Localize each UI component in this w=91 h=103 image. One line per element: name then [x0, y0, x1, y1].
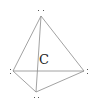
vertex-marker-bottom	[34, 97, 39, 98]
vertex-marker-right	[87, 69, 88, 74]
center-label: C	[39, 53, 49, 66]
vertex-marker-left	[10, 69, 11, 74]
tetrahedron-diagram: C	[0, 0, 91, 103]
edge-top-left	[13, 16, 41, 71]
vertex-marker-top	[38, 10, 44, 11]
edge-left-bottom	[13, 71, 36, 92]
edge-right-bottom	[36, 71, 84, 92]
